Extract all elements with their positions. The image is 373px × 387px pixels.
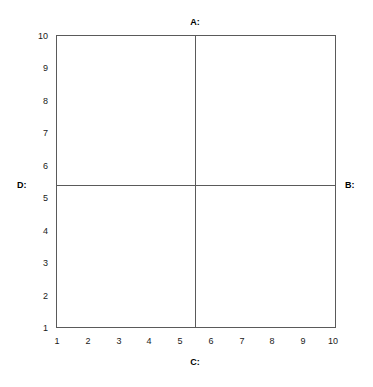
y-tick-label: 3 bbox=[8, 258, 48, 268]
y-tick-label: 5 bbox=[8, 193, 48, 203]
left-axis-label: D: bbox=[17, 180, 27, 190]
x-tick-label: 5 bbox=[167, 336, 193, 346]
bottom-axis-label: C: bbox=[190, 357, 200, 367]
y-tick-label: 7 bbox=[8, 128, 48, 138]
right-axis-label: B: bbox=[345, 180, 355, 190]
x-tick-label: 6 bbox=[198, 336, 224, 346]
x-tick-label: 9 bbox=[290, 336, 316, 346]
y-tick-label: 6 bbox=[8, 161, 48, 171]
x-tick-label: 2 bbox=[75, 336, 101, 346]
y-tick-label: 4 bbox=[8, 226, 48, 236]
y-tick-label: 8 bbox=[8, 96, 48, 106]
y-tick-label: 9 bbox=[8, 63, 48, 73]
x-tick-label: 4 bbox=[136, 336, 162, 346]
horizontal-divider-line bbox=[56, 185, 336, 186]
x-tick-label: 1 bbox=[44, 336, 70, 346]
plot-area bbox=[56, 35, 336, 328]
y-tick-label: 10 bbox=[8, 31, 48, 41]
x-tick-label: 7 bbox=[229, 336, 255, 346]
x-tick-label: 3 bbox=[106, 336, 132, 346]
y-tick-label: 1 bbox=[8, 323, 48, 333]
y-tick-label: 2 bbox=[8, 291, 48, 301]
top-axis-label: A: bbox=[190, 17, 200, 27]
vertical-divider-line bbox=[195, 35, 196, 328]
x-tick-label: 8 bbox=[259, 336, 285, 346]
quadrant-chart: 10 9 8 7 6 5 4 3 2 1 1 2 3 4 5 6 7 8 9 1… bbox=[0, 0, 373, 387]
x-tick-label: 10 bbox=[320, 336, 346, 346]
